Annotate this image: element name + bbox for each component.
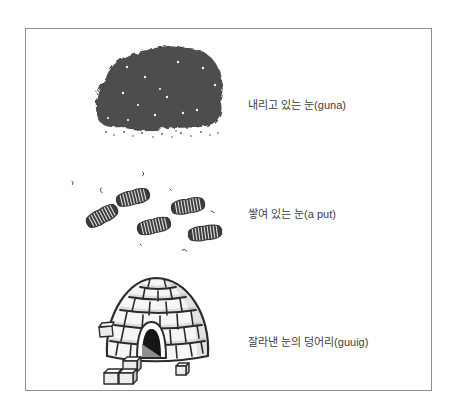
label-piled-snow: 쌓여 있는 눈(a put) [248, 208, 336, 220]
label-snow-block: 잘라낸 눈의 덩어리(guuig) [248, 336, 368, 348]
igloo-illustration [98, 268, 224, 390]
illustration-page: 내리고 있는 눈(guna) [0, 0, 457, 418]
label-falling-snow: 내리고 있는 눈(guna) [248, 99, 346, 111]
falling-snow-cloud-illustration [90, 42, 230, 140]
snow-footprints-illustration [70, 168, 230, 260]
